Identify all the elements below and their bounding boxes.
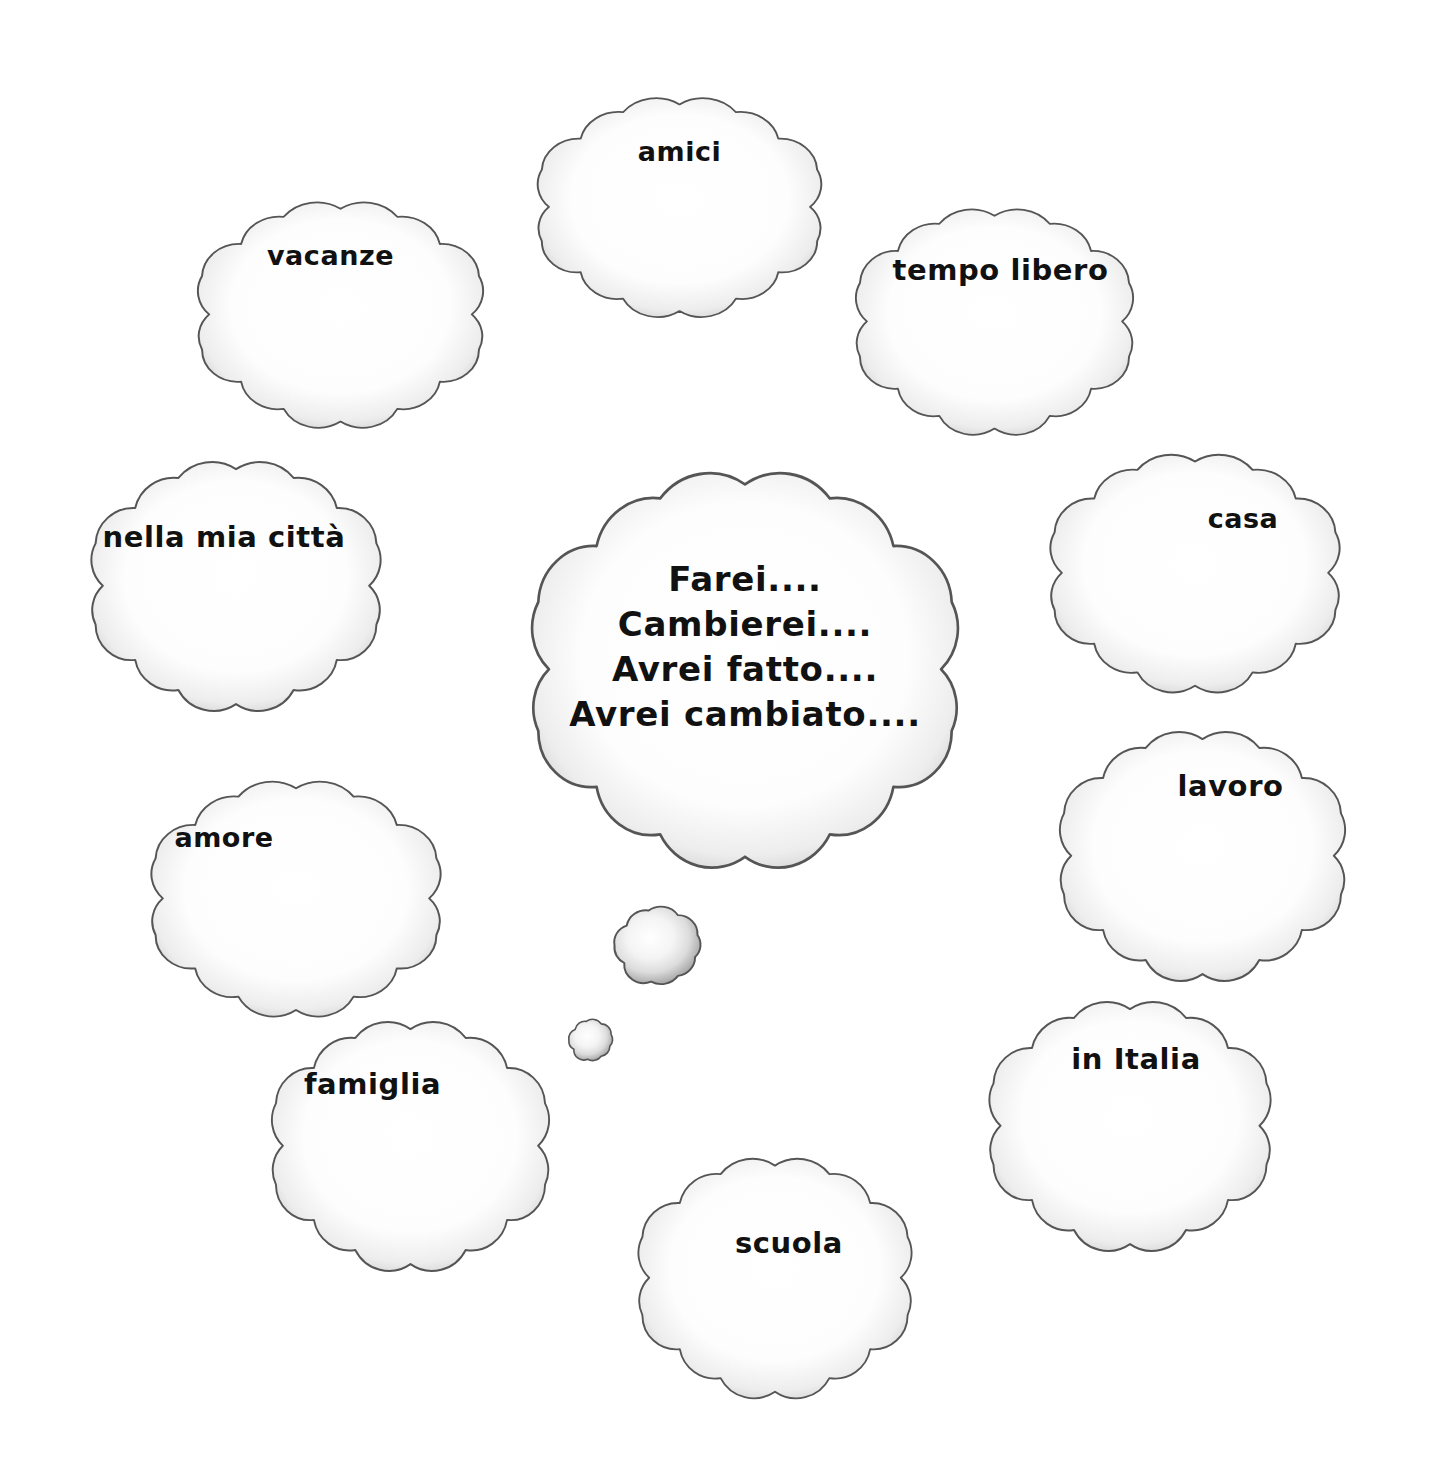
cloud-shape-vacanze xyxy=(163,196,518,436)
topic-cloud-in-italia[interactable]: in Italia xyxy=(955,995,1305,1260)
cloud-shape-famiglia xyxy=(238,1015,583,1280)
cloud-shape-tempo-libero xyxy=(822,203,1167,443)
topic-cloud-vacanze[interactable]: vacanze xyxy=(163,196,518,436)
cloud-shape-in-italia xyxy=(955,995,1305,1260)
central-thought-cloud[interactable]: Farei.... Cambierei.... Avrei fatto.... … xyxy=(480,462,1010,882)
cloud-shape-lavoro xyxy=(1025,725,1380,990)
cloud-shape-casa xyxy=(1015,448,1375,701)
topic-cloud-nella-mia-citta[interactable]: nella mia città xyxy=(56,455,416,720)
tail-bubble-large xyxy=(595,893,717,998)
cloud-shape-scuola xyxy=(605,1152,945,1407)
topic-cloud-amici[interactable]: amici xyxy=(503,92,856,325)
central-cloud-shape xyxy=(480,462,1010,882)
topic-cloud-amore[interactable]: amore xyxy=(116,775,476,1025)
cloud-shape-amici xyxy=(503,92,856,325)
tail-bubble-large-shape xyxy=(595,893,717,998)
worksheet-canvas: Farei.... Cambierei.... Avrei fatto.... … xyxy=(0,0,1430,1465)
topic-cloud-scuola[interactable]: scuola xyxy=(605,1152,945,1407)
cloud-shape-amore xyxy=(116,775,476,1025)
topic-cloud-casa[interactable]: casa xyxy=(1015,448,1375,701)
topic-cloud-famiglia[interactable]: famiglia xyxy=(238,1015,583,1280)
topic-cloud-lavoro[interactable]: lavoro xyxy=(1025,725,1380,990)
topic-cloud-tempo-libero[interactable]: tempo libero xyxy=(822,203,1167,443)
cloud-shape-nella-mia-citta xyxy=(56,455,416,720)
